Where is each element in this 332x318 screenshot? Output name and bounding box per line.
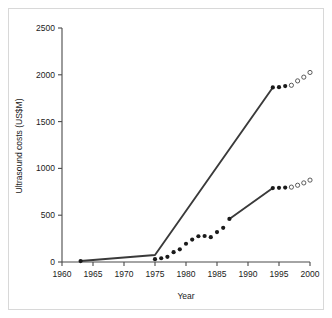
y-axis-title: Ultrasound costs (US$M) <box>14 98 24 193</box>
upper-series-observed-point <box>79 259 83 263</box>
lower-series-projected-point <box>296 183 300 187</box>
upper-series-observed-point <box>277 85 281 89</box>
lower-series-observed-point <box>159 256 163 260</box>
lower-series-observed-point <box>196 234 200 238</box>
lower-series-observed-point <box>172 250 176 254</box>
axes-layer <box>62 28 310 262</box>
lower-series-observed-point <box>184 242 188 246</box>
x-tick-label: 2000 <box>301 269 320 279</box>
y-tick-label: 2500 <box>36 23 55 33</box>
lower-series-observed-point <box>271 186 275 190</box>
x-tick-label: 1970 <box>115 269 134 279</box>
y-tick-label: 500 <box>41 210 55 220</box>
x-axis-title: Year <box>177 291 194 301</box>
lower-series-observed-point <box>283 185 287 189</box>
upper-series-trend-line <box>81 87 273 261</box>
lower-series-projected-point <box>289 185 293 189</box>
y-tick-label: 0 <box>50 257 55 267</box>
x-tick-label: 1980 <box>177 269 196 279</box>
x-tick-label: 1985 <box>208 269 227 279</box>
upper-series-projected-point <box>289 83 293 87</box>
upper-series-observed-point <box>283 84 287 88</box>
upper-series-projected-point <box>308 70 312 74</box>
x-tick-label: 1965 <box>84 269 103 279</box>
upper-series-projected-point <box>296 79 300 83</box>
lower-series-trend-line <box>229 188 272 219</box>
lower-series-observed-point <box>277 186 281 190</box>
lower-series-observed-point <box>153 257 157 261</box>
lower-series-observed-point <box>178 247 182 251</box>
lower-series-observed-point <box>190 237 194 241</box>
x-tick-label: 1975 <box>146 269 165 279</box>
upper-series-projected-point <box>302 75 306 79</box>
y-tick-label: 1000 <box>36 163 55 173</box>
chart-figure: 0500100015002000250019601965197019751980… <box>0 0 332 318</box>
tick-labels-layer: 0500100015002000250019601965197019751980… <box>36 23 320 279</box>
lower-series-observed-point <box>165 255 169 259</box>
lower-series-observed-point <box>221 226 225 230</box>
lower-series-observed-point <box>227 217 231 221</box>
lower-series-observed-point <box>209 235 213 239</box>
lower-series-observed-point <box>203 234 207 238</box>
data-series-layer <box>81 87 273 261</box>
lower-series-projected-point <box>308 178 312 182</box>
upper-series-observed-point <box>271 85 275 89</box>
data-markers-layer <box>79 70 313 263</box>
y-tick-label: 1500 <box>36 117 55 127</box>
x-tick-label: 1960 <box>53 269 72 279</box>
ultrasound-costs-line-chart: 0500100015002000250019601965197019751980… <box>0 0 332 318</box>
x-tick-label: 1990 <box>239 269 258 279</box>
y-tick-label: 2000 <box>36 70 55 80</box>
lower-series-observed-point <box>215 230 219 234</box>
lower-series-projected-point <box>302 181 306 185</box>
tick-marks-layer <box>58 28 310 266</box>
x-tick-label: 1995 <box>270 269 289 279</box>
